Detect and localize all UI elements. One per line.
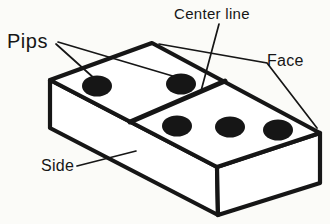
- pip: [162, 116, 192, 137]
- domino-diagram: Pips Center line Face Side: [0, 0, 330, 224]
- pip: [215, 117, 245, 138]
- domino-drawing: [0, 0, 330, 224]
- pip: [82, 76, 112, 97]
- pip: [263, 120, 293, 141]
- face-label: Face: [267, 53, 304, 69]
- side-label: Side: [41, 158, 74, 174]
- pips-label: Pips: [7, 31, 48, 51]
- center-line-label: Center line: [174, 6, 250, 21]
- pip: [166, 74, 196, 95]
